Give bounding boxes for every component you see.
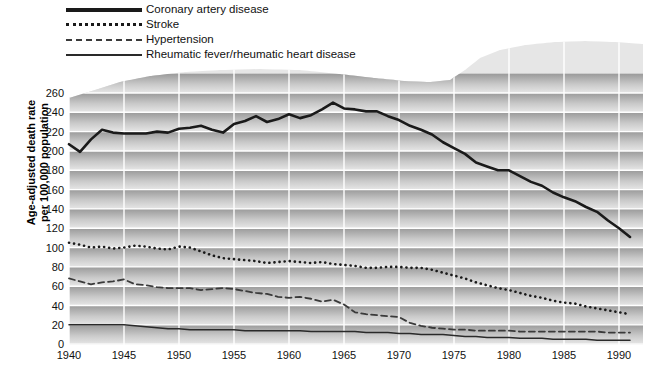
background-band bbox=[69, 112, 643, 131]
x-tick-label: 1965 bbox=[332, 349, 356, 361]
x-tick-label: 1945 bbox=[112, 349, 136, 361]
x-tick-label: 1955 bbox=[222, 349, 246, 361]
x-tick-label: 1990 bbox=[607, 349, 631, 361]
x-tick-label: 1985 bbox=[552, 349, 576, 361]
x-axis-tick-labels: 1940194519501955196019651970197519801985… bbox=[57, 349, 631, 361]
background-band bbox=[69, 151, 643, 170]
y-tick-label: 80 bbox=[52, 261, 64, 273]
background-band bbox=[69, 306, 643, 325]
background-band bbox=[69, 132, 643, 151]
x-tick-label: 1950 bbox=[167, 349, 191, 361]
y-tick-label: 160 bbox=[46, 184, 64, 196]
y-tick-label: 20 bbox=[52, 319, 64, 331]
y-tick-label: 220 bbox=[46, 126, 64, 138]
y-tick-label: 60 bbox=[52, 280, 64, 292]
y-tick-label: 240 bbox=[46, 106, 64, 118]
chart-canvas: 020406080100120140160180200220240260 194… bbox=[0, 0, 645, 373]
x-tick-label: 1960 bbox=[277, 349, 301, 361]
y-tick-label: 100 bbox=[46, 242, 64, 254]
background-band bbox=[69, 74, 643, 93]
x-tick-label: 1975 bbox=[442, 349, 466, 361]
plot-area: 020406080100120140160180200220240260 194… bbox=[0, 0, 645, 373]
y-axis-tick-labels: 020406080100120140160180200220240260 bbox=[46, 87, 64, 350]
x-tick-label: 1940 bbox=[57, 349, 81, 361]
x-tick-label: 1970 bbox=[387, 349, 411, 361]
background-band bbox=[69, 190, 643, 209]
y-tick-label: 180 bbox=[46, 164, 64, 176]
background-band bbox=[69, 170, 643, 189]
background-band bbox=[69, 286, 643, 305]
y-tick-label: 200 bbox=[46, 145, 64, 157]
y-tick-label: 140 bbox=[46, 203, 64, 215]
background-band bbox=[69, 267, 643, 286]
chart-root: Coronary artery disease Stroke Hypertens… bbox=[0, 0, 645, 373]
background-bands bbox=[69, 30, 643, 345]
background-band bbox=[69, 228, 643, 247]
y-tick-label: 40 bbox=[52, 300, 64, 312]
x-tick-label: 1980 bbox=[497, 349, 521, 361]
y-tick-label: 260 bbox=[46, 87, 64, 99]
background-band bbox=[69, 209, 643, 228]
y-tick-label: 120 bbox=[46, 222, 64, 234]
background-band bbox=[69, 248, 643, 267]
